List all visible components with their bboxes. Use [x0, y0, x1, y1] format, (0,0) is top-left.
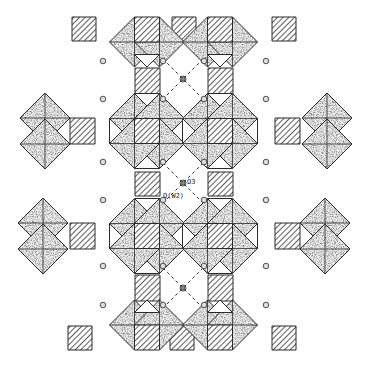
- tetrahedron-link-right: [275, 118, 300, 144]
- central-tetrahedron: [208, 224, 233, 249]
- water-oxygen-bottom-core: [181, 286, 185, 290]
- tetrahedron-link-center-left: [135, 172, 160, 196]
- atoms-layer: [100, 58, 269, 308]
- tetrahedron-link-upper-left: [135, 68, 160, 94]
- tetrahedron-link-upper-right: [208, 68, 233, 94]
- tetrahedron-bottom-right: [272, 326, 296, 350]
- oxygen-o3: [201, 58, 207, 64]
- oxygen-o3: [201, 197, 207, 203]
- label-ow2: O(W2): [163, 192, 184, 200]
- oxygen-o3: [201, 159, 207, 165]
- oxygen-o3: [263, 159, 269, 165]
- label-o3: O3: [187, 178, 195, 186]
- lower-right-cluster: [183, 199, 258, 274]
- octahedron: [20, 119, 70, 169]
- oxygen-o3: [100, 96, 106, 102]
- oxygen-o3: [160, 96, 166, 102]
- tetrahedron-link-center-right: [208, 172, 233, 196]
- octahedron: [300, 224, 350, 274]
- oxygen-o3: [263, 96, 269, 102]
- far-left-lower-pair: [18, 198, 68, 274]
- water-oxygen-ow2-core: [181, 181, 185, 185]
- central-tetrahedron: [208, 119, 233, 144]
- oxygen-o3: [201, 302, 207, 308]
- oxygen-o3: [263, 197, 269, 203]
- tetrahedron-link-lower-left: [135, 275, 160, 301]
- oxygen-o3: [160, 302, 166, 308]
- oxygen-o3: [100, 159, 106, 165]
- central-tetrahedron: [208, 325, 233, 350]
- oxygen-o3: [160, 263, 166, 269]
- octahedron: [18, 224, 68, 274]
- oxygen-o3: [100, 58, 106, 64]
- oxygen-o3: [100, 302, 106, 308]
- oxygen-o3: [263, 302, 269, 308]
- oxygen-o3: [263, 58, 269, 64]
- tetrahedron-top-right: [272, 17, 296, 41]
- tetrahedron-link-left-lower: [70, 223, 95, 249]
- far-right-lower-pair: [300, 198, 350, 274]
- middle-right-cluster: [183, 94, 258, 169]
- central-tetrahedron: [135, 17, 160, 42]
- oxygen-o3: [263, 263, 269, 269]
- central-tetrahedron: [135, 224, 160, 249]
- oxygen-o3: [160, 159, 166, 165]
- octahedron: [302, 119, 352, 169]
- oxygen-o3: [201, 263, 207, 269]
- far-left-upper-pair: [20, 93, 70, 169]
- tetrahedron-top-left: [72, 17, 96, 41]
- tetrahedron-link-lower-right: [208, 275, 233, 301]
- central-tetrahedron: [135, 325, 160, 350]
- lower-left-cluster: [110, 199, 185, 274]
- tetrahedron-bottom-left: [68, 326, 92, 350]
- crystal-structure-diagram: O(W2) O3: [0, 0, 367, 366]
- tetrahedron-link-right-lower: [275, 223, 300, 249]
- central-tetrahedron: [135, 119, 160, 144]
- oxygen-o3: [160, 58, 166, 64]
- oxygen-o3: [100, 263, 106, 269]
- oxygen-o3: [201, 96, 207, 102]
- far-right-upper-pair: [302, 93, 352, 169]
- oxygen-o3: [100, 197, 106, 203]
- water-oxygen-top-core: [181, 77, 185, 81]
- tetrahedron-link-left: [70, 118, 95, 144]
- central-tetrahedron: [208, 17, 233, 42]
- middle-left-cluster: [110, 94, 185, 169]
